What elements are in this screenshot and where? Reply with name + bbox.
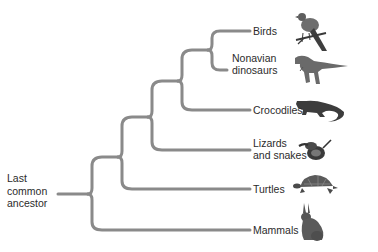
branch-node-a-up [88, 157, 118, 194]
taxon-label-text: Birds [253, 25, 277, 37]
branch-birds [208, 31, 250, 50]
taxon-label-text: Mammals [253, 224, 299, 236]
taxon-label-text: Turtles [253, 183, 285, 195]
taxon-label-birds: Birds [253, 25, 277, 37]
taxon-label-text: dinosaurs [232, 64, 278, 76]
branch-turtles [118, 157, 250, 189]
dinosaur-icon [295, 56, 348, 84]
branch-nonavian [208, 50, 227, 70]
root-label-line: common [7, 185, 47, 198]
branch-node-c-up [148, 81, 178, 117]
taxon-label-crocodiles: Crocodiles [253, 104, 303, 116]
taxon-label-turtles: Turtles [253, 183, 285, 195]
taxon-label-text: Lizards [253, 137, 307, 149]
root-label: Last common ancestor [7, 172, 47, 210]
root-label-line: Last [7, 172, 47, 185]
taxon-label-text: Crocodiles [253, 104, 303, 116]
rabbit-icon [301, 203, 323, 241]
bird-icon [295, 13, 327, 51]
branch-node-d-up [178, 50, 208, 81]
root-label-line: ancestor [7, 197, 47, 210]
branch-node-b-up [118, 117, 148, 157]
taxon-label-nonavian-dinosaurs: Nonavian dinosaurs [232, 52, 278, 76]
phylogenetic-tree [0, 0, 378, 252]
branch-mammals [88, 194, 250, 230]
taxon-label-text: Nonavian [232, 52, 278, 64]
taxon-label-lizards-and-snakes: Lizards and snakes [253, 137, 307, 161]
taxon-label-mammals: Mammals [253, 224, 299, 236]
taxon-label-text: and snakes [253, 149, 307, 161]
branch-crocodiles [178, 81, 250, 110]
branch-lizards [148, 117, 250, 150]
turtle-icon [293, 175, 338, 194]
crocodile-icon [296, 101, 344, 122]
